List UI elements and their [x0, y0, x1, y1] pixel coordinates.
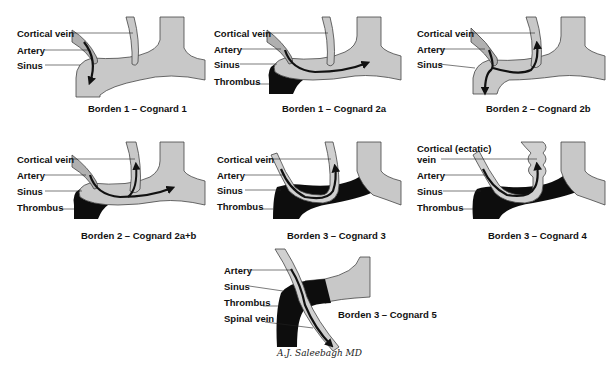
label-artery: Artery [17, 170, 45, 181]
panel-borden1-cognard1: Cortical vein Artery Sinus Borden 1 – Co… [0, 0, 205, 125]
label-thrombus: Thrombus [214, 76, 260, 87]
label-artery: Artery [417, 44, 445, 55]
label-vein: vein [417, 154, 436, 165]
caption-borden1-cognard1: Borden 1 – Cognard 1 [88, 103, 187, 114]
panel-borden2-cognard2b: Cortical vein Artery Sinus Borden 2 – Co… [409, 0, 614, 125]
label-cortical-vein: Cortical vein [17, 154, 74, 165]
panel-borden3-cognard4: Cortical (ectatic) vein Artery Sinus Thr… [409, 125, 614, 250]
panel-borden2-cognard2ab: Cortical vein Artery Sinus Thrombus Bord… [0, 125, 205, 250]
caption-borden2-cognard2b: Borden 2 – Cognard 2b [486, 103, 591, 114]
label-artery: Artery [17, 45, 45, 56]
label-sinus: Sinus [17, 60, 43, 71]
label-thrombus: Thrombus [17, 202, 63, 213]
label-sinus: Sinus [417, 186, 443, 197]
panel-borden3-cognard3: Cortical vein Artery Sinus Thrombus Bord… [205, 125, 410, 250]
caption-borden1-cognard2a: Borden 1 – Cognard 2a [282, 103, 386, 114]
caption-borden2-cognard2ab: Borden 2 – Cognard 2a+b [81, 230, 196, 241]
panel-borden1-cognard2a: Cortical vein Artery Sinus Thrombus Bord… [205, 0, 410, 125]
label-sinus: Sinus [224, 281, 250, 292]
label-sinus: Sinus [217, 185, 243, 196]
label-sinus: Sinus [417, 59, 443, 70]
label-thrombus: Thrombus [217, 201, 263, 212]
label-cortical-vein: Cortical vein [214, 28, 271, 39]
caption-borden3-cognard5: Borden 3 – Cognard 5 [338, 309, 437, 320]
label-spinal-vein: Spinal vein [224, 313, 274, 324]
label-sinus: Sinus [17, 186, 43, 197]
label-artery: Artery [214, 44, 242, 55]
label-artery: Artery [217, 170, 245, 181]
label-cortical-vein: Cortical vein [417, 28, 474, 39]
label-thrombus: Thrombus [417, 202, 463, 213]
label-artery: Artery [417, 170, 445, 181]
label-cortical-vein: Cortical vein [217, 154, 274, 165]
caption-borden3-cognard4: Borden 3 – Cognard 4 [488, 230, 587, 241]
label-thrombus: Thrombus [224, 297, 270, 308]
panel-borden3-cognard5: Artery Sinus Thrombus Spinal vein Borden… [205, 245, 435, 376]
label-cortical-vein: Cortical vein [17, 28, 74, 39]
label-artery: Artery [224, 265, 252, 276]
label-cortical-ectatic: Cortical (ectatic) [417, 143, 491, 154]
caption-borden3-cognard3: Borden 3 – Cognard 3 [287, 230, 386, 241]
author-signature: A.J. Saleebagh MD [277, 348, 362, 358]
label-sinus: Sinus [214, 59, 240, 70]
